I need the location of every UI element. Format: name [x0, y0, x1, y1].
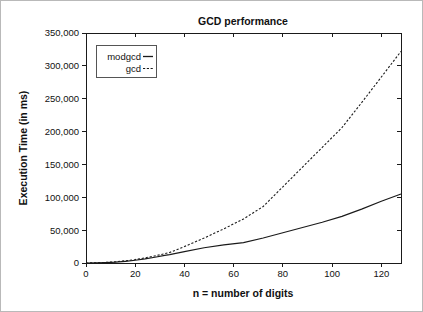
series-line-gcd	[86, 51, 401, 263]
x-tick-label: 100	[324, 268, 340, 279]
x-tick-label: 40	[179, 268, 190, 279]
y-tick-label: 0	[74, 257, 79, 268]
x-tick-label: 0	[83, 268, 88, 279]
x-tick-label: 80	[278, 268, 289, 279]
series-line-modgcd	[86, 194, 401, 263]
chart-title: GCD performance	[198, 15, 288, 27]
y-tick-label: 250,000	[45, 93, 79, 104]
gcd-performance-line-chart: GCD performance 050,000100,000150,000200…	[1, 1, 423, 312]
chart-figure: GCD performance 050,000100,000150,000200…	[0, 0, 423, 312]
x-axis-title: n = number of digits	[193, 287, 294, 299]
y-axis-title: Execution Time (in ms)	[17, 91, 29, 206]
y-tick-label: 200,000	[45, 126, 79, 137]
chart-legend: modgcd gcd	[97, 46, 157, 78]
y-tick-label: 50,000	[50, 225, 79, 236]
y-tick-label: 150,000	[45, 159, 79, 170]
y-tick-label: 300,000	[45, 60, 79, 71]
x-tick-label: 20	[130, 268, 141, 279]
y-tick-label: 350,000	[45, 27, 79, 38]
x-tick-label: 120	[373, 268, 389, 279]
legend-label-modgcd: modgcd	[107, 51, 141, 62]
data-series	[86, 51, 401, 263]
y-tick-label: 100,000	[45, 192, 79, 203]
legend-label-gcd: gcd	[126, 63, 141, 74]
x-tick-label: 60	[228, 268, 239, 279]
